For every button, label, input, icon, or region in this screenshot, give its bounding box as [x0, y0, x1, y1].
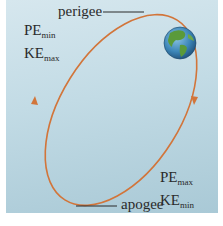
apogee-energy-label: PEmax KEmin — [160, 168, 194, 214]
pe-max-label: PEmax — [160, 168, 194, 191]
pe-min-label: PEmin — [24, 21, 60, 44]
cropped-caption — [6, 215, 218, 226]
ke-max-label: KEmax — [24, 44, 60, 67]
orbit-arrow-left-icon — [31, 96, 38, 105]
ke-min-label: KEmin — [160, 191, 194, 214]
orbit-arrow-right-icon — [191, 96, 198, 105]
apogee-label: apogee — [121, 197, 163, 212]
earth-icon — [164, 27, 196, 59]
perigee-label: perigee — [58, 4, 102, 19]
perigee-energy-label: PEmin KEmax — [24, 21, 60, 67]
